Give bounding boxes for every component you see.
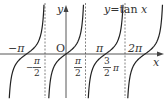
tick-three-half-pi-symbol: π bbox=[113, 64, 119, 73]
tick-half-pi: π 2 bbox=[74, 57, 82, 78]
y-axis-label: y bbox=[57, 4, 63, 15]
tick-three-half-pi: 3 2 bbox=[103, 57, 111, 78]
tick-pi: π bbox=[96, 43, 103, 54]
tan-branch-2 bbox=[88, 5, 123, 98]
tick-neg-pi: −π bbox=[8, 43, 24, 54]
tick-neg-half-pi: π 2 bbox=[33, 57, 41, 78]
tan-graph: y=tan x y x O −π π 2π − π 2 π 2 3 2 π bbox=[0, 0, 168, 101]
tick-two-pi: 2π bbox=[128, 43, 142, 54]
x-axis-label: x bbox=[153, 57, 159, 68]
origin-label: O bbox=[56, 43, 65, 54]
y-axis-arrow-icon bbox=[64, 5, 69, 12]
equation-label: y=tan x bbox=[104, 4, 147, 15]
